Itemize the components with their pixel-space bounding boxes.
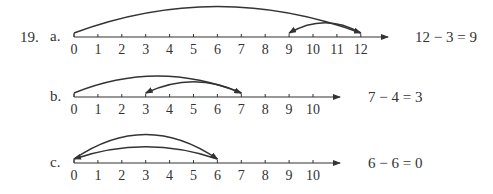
tick-label: 8 xyxy=(262,168,269,183)
tick-label: 8 xyxy=(262,42,269,57)
tick-label: 8 xyxy=(262,102,269,117)
jump-arc-left xyxy=(146,82,242,93)
tick-label: 3 xyxy=(142,42,149,57)
tick-label: 7 xyxy=(238,102,245,117)
tick-label: 10 xyxy=(306,168,320,183)
part-label: b. xyxy=(50,88,61,104)
tick-label: 3 xyxy=(142,102,149,117)
tick-label: 4 xyxy=(166,42,173,57)
tick-label: 5 xyxy=(190,102,197,117)
tick-label: 12 xyxy=(354,42,368,57)
number-line-part-b: b.0123456789107 − 4 = 3 xyxy=(50,76,422,117)
tick-label: 0 xyxy=(71,42,78,57)
number-line-part-c: c.0123456789106 − 6 = 0 xyxy=(50,134,422,183)
tick-label: 6 xyxy=(214,42,221,57)
tick-label: 7 xyxy=(238,42,245,57)
tick-label: 10 xyxy=(306,102,320,117)
tick-label: 5 xyxy=(190,168,197,183)
tick-label: 4 xyxy=(166,168,173,183)
tick-label: 9 xyxy=(286,168,293,183)
tick-label: 0 xyxy=(71,168,78,183)
tick-label: 6 xyxy=(214,102,221,117)
tick-label: 0 xyxy=(71,102,78,117)
tick-label: 6 xyxy=(214,168,221,183)
tick-label: 1 xyxy=(94,168,101,183)
tick-label: 3 xyxy=(142,168,149,183)
tick-label: 5 xyxy=(190,42,197,57)
jump-arc-right xyxy=(74,7,361,34)
tick-label: 2 xyxy=(118,102,125,117)
tick-label: 10 xyxy=(306,42,320,57)
part-label: c. xyxy=(50,154,60,170)
tick-label: 2 xyxy=(118,42,125,57)
equation: 6 − 6 = 0 xyxy=(368,155,422,171)
tick-label: 2 xyxy=(118,168,125,183)
tick-label: 9 xyxy=(286,102,293,117)
number-line-diagram: 19. a.012345678910111212 − 3 = 9b.012345… xyxy=(0,0,493,194)
tick-label: 7 xyxy=(238,168,245,183)
tick-label: 9 xyxy=(286,42,293,57)
problem-number: 19. xyxy=(20,29,39,45)
equation: 7 − 4 = 3 xyxy=(368,89,422,105)
tick-label: 1 xyxy=(94,102,101,117)
tick-label: 11 xyxy=(330,42,343,57)
jump-arc-left xyxy=(74,147,217,159)
jump-arc-left xyxy=(289,23,361,33)
number-line-part-a: a.012345678910111212 − 3 = 9 xyxy=(50,7,477,58)
tick-label: 1 xyxy=(94,42,101,57)
tick-label: 4 xyxy=(166,102,173,117)
equation: 12 − 3 = 9 xyxy=(415,29,477,45)
part-label: a. xyxy=(50,28,60,44)
